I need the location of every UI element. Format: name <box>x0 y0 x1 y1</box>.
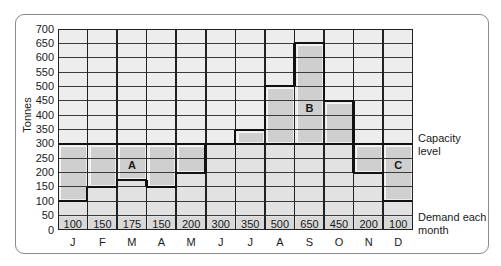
y-tick-label: 250 <box>24 153 54 164</box>
plot-area: 100150175150200300350500650450200100ABC <box>58 29 413 230</box>
y-tick-label: 650 <box>24 38 54 49</box>
x-tick-label: J <box>206 236 236 248</box>
y-tick-label: 350 <box>24 124 54 135</box>
capacity-label-line2: level <box>418 145 461 158</box>
y-tick-label: 150 <box>24 181 54 192</box>
x-tick-label: M <box>176 236 206 248</box>
demand-label-line2: month <box>418 224 487 237</box>
annotation-b: B <box>305 102 313 114</box>
demand-legend-label: Demand each month <box>418 211 487 236</box>
y-tick-label: 400 <box>24 110 54 121</box>
y-tick-label: 300 <box>24 138 54 149</box>
y-tick-label: 200 <box>24 167 54 178</box>
x-tick-label: M <box>117 236 147 248</box>
x-tick-label: D <box>383 236 413 248</box>
x-tick-label: J <box>236 236 266 248</box>
x-tick-label: A <box>147 236 177 248</box>
y-tick-label: 600 <box>24 52 54 63</box>
annotation-a: A <box>128 159 136 171</box>
x-tick-label: A <box>265 236 295 248</box>
x-tick-label: N <box>354 236 384 248</box>
x-tick-label: O <box>324 236 354 248</box>
y-tick-label: 0 <box>24 225 54 236</box>
x-tick-label: J <box>58 236 88 248</box>
capacity-label-line1: Capacity <box>418 132 461 145</box>
annotation-c: C <box>394 159 402 171</box>
y-tick-label: 450 <box>24 95 54 106</box>
y-tick-label: 500 <box>24 81 54 92</box>
plot-border <box>58 29 413 230</box>
y-tick-label: 50 <box>24 210 54 221</box>
y-tick-label: 700 <box>24 24 54 35</box>
x-tick-label: S <box>295 236 325 248</box>
y-tick-label: 100 <box>24 196 54 207</box>
y-tick-label: 550 <box>24 67 54 78</box>
capacity-legend-label: Capacity level <box>418 132 461 157</box>
demand-label-line1: Demand each <box>418 211 487 224</box>
x-tick-label: F <box>88 236 118 248</box>
